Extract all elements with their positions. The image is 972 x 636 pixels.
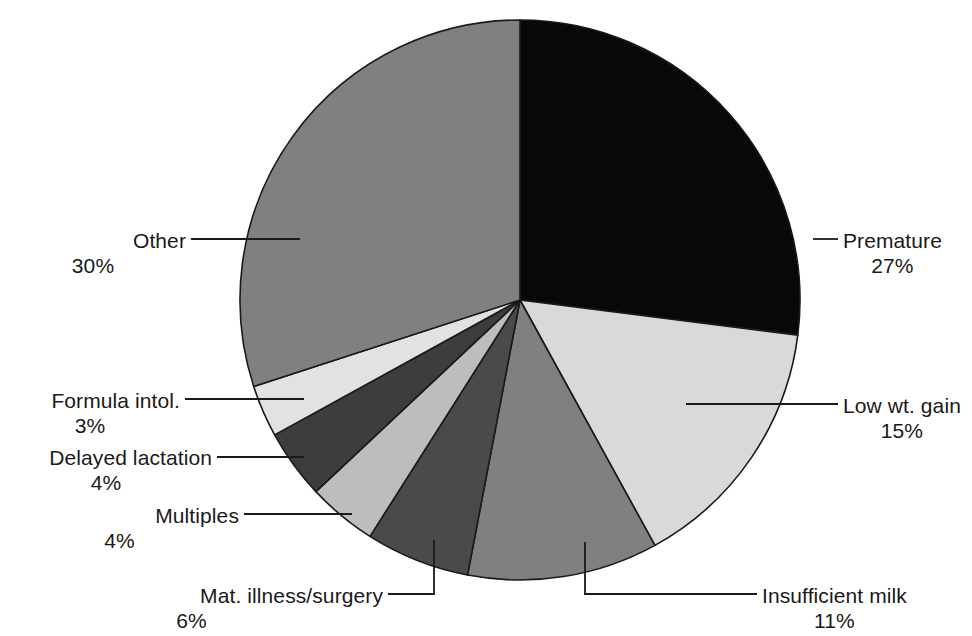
pie-slice-label-name: Premature bbox=[843, 228, 942, 253]
pie-slice-label-name: Delayed lactation bbox=[0, 445, 212, 470]
pie-slice-label-value: 15% bbox=[843, 418, 961, 443]
pie-slice-label-value: 27% bbox=[843, 253, 942, 278]
pie-slice-label-value: 6% bbox=[0, 608, 383, 633]
pie-slice-label-name: Formula intol. bbox=[0, 388, 180, 413]
pie-slice-label-name: Insufficient milk bbox=[762, 583, 907, 608]
pie-slice-label: Low wt. gain15% bbox=[843, 393, 961, 443]
pie-slice-label-value: 11% bbox=[762, 608, 907, 633]
pie-slice-label: Multiples4% bbox=[0, 503, 239, 553]
pie-slice-label-value: 4% bbox=[0, 470, 212, 495]
pie-slice-label-value: 3% bbox=[0, 413, 180, 438]
pie-slice-label-name: Low wt. gain bbox=[843, 393, 961, 418]
pie-slice-label: Delayed lactation4% bbox=[0, 445, 212, 495]
pie-slice-label: Premature27% bbox=[843, 228, 942, 278]
pie-slice-label-value: 4% bbox=[0, 528, 239, 553]
pie-slice-label-name: Mat. illness/surgery bbox=[0, 583, 383, 608]
pie-chart: Premature27%Low wt. gain15%Insufficient … bbox=[0, 0, 972, 636]
pie-slice-label-value: 30% bbox=[0, 253, 186, 278]
pie-slice[interactable] bbox=[520, 20, 800, 335]
pie-slice-label: Formula intol.3% bbox=[0, 388, 180, 438]
pie-slice-label: Other30% bbox=[0, 228, 186, 278]
pie-slice-label: Insufficient milk11% bbox=[762, 583, 907, 633]
pie-slice-label-name: Multiples bbox=[0, 503, 239, 528]
pie-slice-label: Mat. illness/surgery6% bbox=[0, 583, 383, 633]
pie-slice-label-name: Other bbox=[0, 228, 186, 253]
